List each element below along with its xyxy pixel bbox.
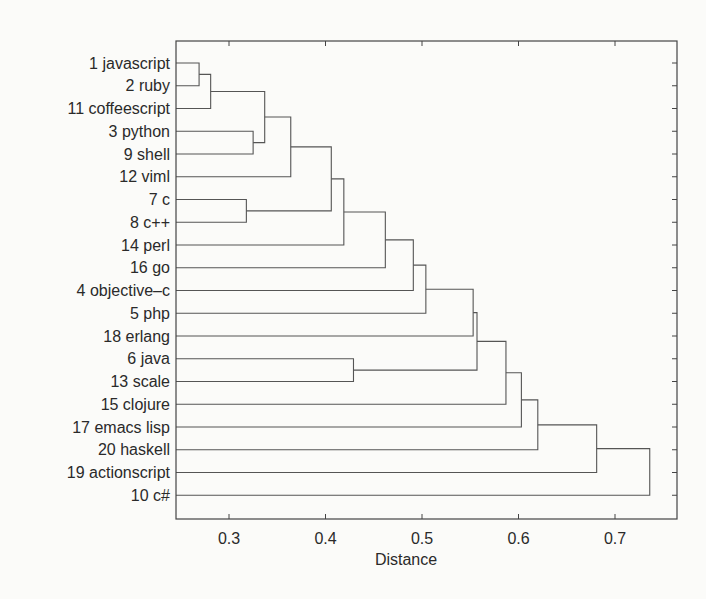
- dendrogram-links: [176, 63, 650, 495]
- dendrogram-link: [176, 359, 353, 382]
- leaf-label: 1 javascript: [89, 55, 170, 72]
- dendrogram-link: [176, 117, 291, 177]
- leaf-labels: 1 javascript2 ruby11 coffeescript3 pytho…: [67, 55, 171, 504]
- dendrogram-link: [176, 289, 473, 336]
- leaf-label: 13 scale: [110, 373, 170, 390]
- leaf-label: 15 clojure: [101, 396, 170, 413]
- leaf-label: 9 shell: [124, 146, 170, 163]
- leaf-label: 17 emacs lisp: [72, 419, 170, 436]
- x-tick-labels: 0.30.40.50.60.7: [218, 530, 626, 547]
- x-tick-label: 0.7: [604, 530, 626, 547]
- dendrogram-link: [176, 341, 506, 404]
- leaf-label: 19 actionscript: [67, 464, 171, 481]
- plot-frame: [176, 41, 677, 519]
- dendrogram-link: [176, 373, 521, 427]
- leaf-label: 4 objective–c: [77, 282, 170, 299]
- x-tick-label: 0.5: [411, 530, 433, 547]
- leaf-label: 7 c: [149, 191, 170, 208]
- dendrogram-link: [176, 265, 426, 313]
- leaf-label: 10 c#: [131, 487, 170, 504]
- axis-ticks: [229, 41, 677, 519]
- dendrogram-link: [176, 179, 344, 245]
- x-tick-label: 0.4: [314, 530, 336, 547]
- leaf-label: 8 c++: [130, 214, 170, 231]
- leaf-label: 3 python: [109, 123, 170, 140]
- dendrogram-link: [176, 131, 253, 154]
- leaf-label: 16 go: [130, 259, 170, 276]
- dendrogram-link: [246, 147, 331, 211]
- dendrogram-link: [353, 313, 477, 371]
- dendrogram-link: [176, 425, 597, 473]
- dendrogram-link: [176, 74, 211, 108]
- x-tick-label: 0.3: [218, 530, 240, 547]
- dendrogram-link: [176, 240, 413, 291]
- leaf-label: 6 java: [127, 350, 170, 367]
- leaf-label: 5 php: [130, 305, 170, 322]
- x-tick-label: 0.6: [507, 530, 529, 547]
- dendrogram-link: [176, 400, 538, 450]
- leaf-label: 20 haskell: [98, 441, 170, 458]
- leaf-label: 2 ruby: [126, 77, 170, 94]
- x-axis-title: Distance: [375, 551, 437, 568]
- dendrogram-link: [176, 63, 199, 86]
- dendrogram-link: [176, 212, 385, 268]
- leaf-label: 12 viml: [119, 168, 170, 185]
- leaf-label: 18 erlang: [103, 328, 170, 345]
- leaf-label: 11 coffeescript: [67, 100, 170, 117]
- dendrogram-link: [211, 91, 265, 142]
- leaf-label: 14 perl: [121, 237, 170, 254]
- dendrogram-chart: 0.30.40.50.60.7 1 javascript2 ruby11 cof…: [0, 0, 706, 599]
- dendrogram-link: [176, 200, 246, 223]
